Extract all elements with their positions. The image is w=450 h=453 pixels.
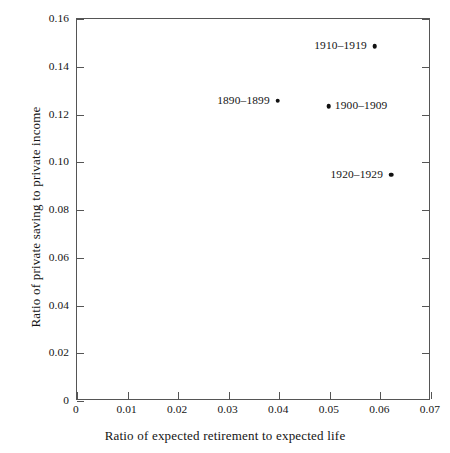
x-axis-tick (330, 392, 331, 399)
y-axis-tick-label: 0.16 (49, 12, 69, 24)
x-axis-tick-label: 0.04 (268, 403, 288, 415)
plot-area (76, 18, 430, 400)
y-axis-tick-right (422, 210, 429, 211)
y-axis-tick (77, 162, 84, 163)
x-axis-tick (178, 392, 179, 399)
data-point (373, 44, 378, 49)
data-point-label: 1910–1919 (314, 39, 367, 51)
y-axis-tick (77, 353, 84, 354)
x-axis-tick (279, 392, 280, 399)
y-axis-tick-label: 0.12 (49, 108, 69, 120)
y-axis-tick-label: 0 (63, 394, 69, 406)
data-point (389, 173, 394, 178)
x-axis-tick (229, 392, 230, 399)
y-axis-tick-right (422, 353, 429, 354)
y-axis-tick-right (422, 19, 429, 20)
y-axis-tick-label: 0.02 (49, 346, 69, 358)
y-axis-tick (77, 115, 84, 116)
y-axis-tick-label: 0.08 (49, 203, 69, 215)
x-axis-tick-label: 0.06 (369, 403, 389, 415)
data-point-label: 1920–1929 (330, 168, 383, 180)
data-point-label: 1890–1899 (217, 94, 270, 106)
y-axis-tick (77, 306, 84, 307)
y-axis-tick-right (422, 306, 429, 307)
y-axis-tick (77, 401, 84, 402)
x-axis-tick-label: 0.02 (167, 403, 187, 415)
y-axis-tick-label: 0.06 (49, 251, 69, 263)
x-axis-tick-label: 0.07 (420, 403, 440, 415)
x-axis-tick (380, 392, 381, 399)
x-axis-tick-label: 0.01 (116, 403, 136, 415)
x-axis-tick-label: 0 (73, 403, 79, 415)
y-axis-tick (77, 210, 84, 211)
y-axis-title: Ratio of private saving to private incom… (28, 87, 44, 347)
x-axis-tick-label: 0.03 (218, 403, 238, 415)
y-axis-tick-right (422, 162, 429, 163)
x-axis-tick-label: 0.05 (319, 403, 339, 415)
x-axis-tick (431, 392, 432, 399)
y-axis-tick-right (422, 67, 429, 68)
y-axis-tick (77, 258, 84, 259)
scatter-plot-figure: Ratio of private saving to private incom… (0, 0, 450, 453)
y-axis-tick-label: 0.10 (49, 155, 69, 167)
data-point (327, 104, 332, 109)
x-axis-tick (128, 392, 129, 399)
x-axis-tick (77, 392, 78, 399)
y-axis-tick-right (422, 258, 429, 259)
data-point (275, 99, 280, 104)
y-axis-tick-label: 0.04 (49, 299, 69, 311)
y-axis-tick (77, 19, 84, 20)
y-axis-tick-label: 0.14 (49, 60, 69, 72)
x-axis-title: Ratio of expected retirement to expected… (0, 428, 450, 444)
data-point-label: 1900–1909 (335, 99, 388, 111)
y-axis-tick (77, 67, 84, 68)
y-axis-tick-right (422, 115, 429, 116)
